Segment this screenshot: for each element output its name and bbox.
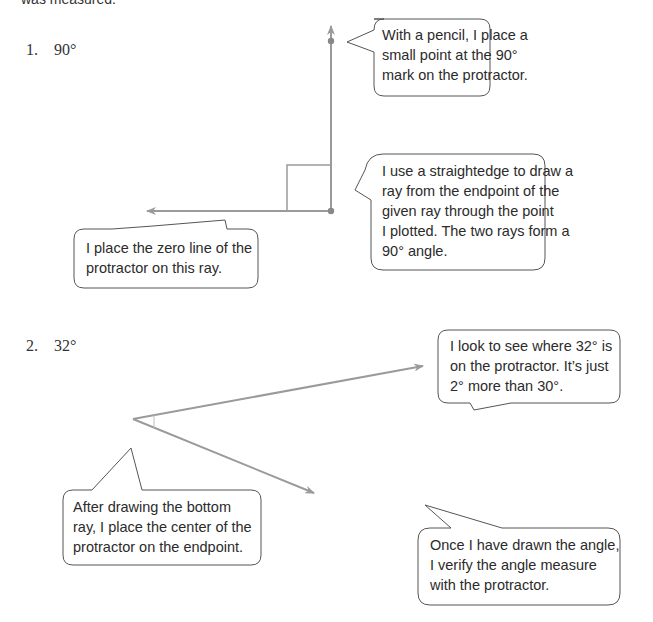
- lower-ray: [133, 419, 314, 493]
- callout-text-center-endpoint: After drawing the bottom ray, I place th…: [73, 497, 252, 557]
- callout-text-zero-line: I place the zero line of the protractor …: [86, 238, 252, 278]
- callout-text-pencil-point: With a pencil, I place a small point at …: [382, 25, 528, 85]
- plotted-point: [328, 38, 334, 44]
- right-angle-marker: [287, 165, 331, 211]
- callout-text-verify: Once I have drawn the angle, I verify th…: [430, 535, 619, 595]
- angle-32-diagram: [133, 366, 423, 493]
- endpoint: [328, 208, 334, 214]
- callout-text-straightedge: I use a straightedge to draw a ray from …: [382, 161, 573, 261]
- right-angle-diagram: [147, 26, 334, 214]
- upper-ray: [133, 366, 423, 419]
- callout-text-look-32: I look to see where 32° is on the protra…: [450, 336, 612, 396]
